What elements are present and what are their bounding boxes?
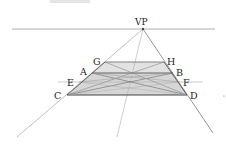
vanishing-point-dot	[142, 28, 144, 30]
label-e: E	[67, 77, 74, 88]
label-vp: VP	[134, 17, 148, 27]
label-a: A	[79, 66, 87, 77]
perspective-diagram: VP G H A B E F C D	[0, 0, 226, 157]
label-f: F	[183, 77, 190, 88]
label-h: H	[167, 56, 175, 67]
cutoff-text-fragment	[50, 0, 90, 3]
label-g: G	[93, 56, 101, 67]
label-c: C	[54, 90, 61, 101]
label-d: D	[190, 90, 198, 101]
stray-dot	[223, 95, 224, 96]
label-b: B	[176, 67, 183, 78]
